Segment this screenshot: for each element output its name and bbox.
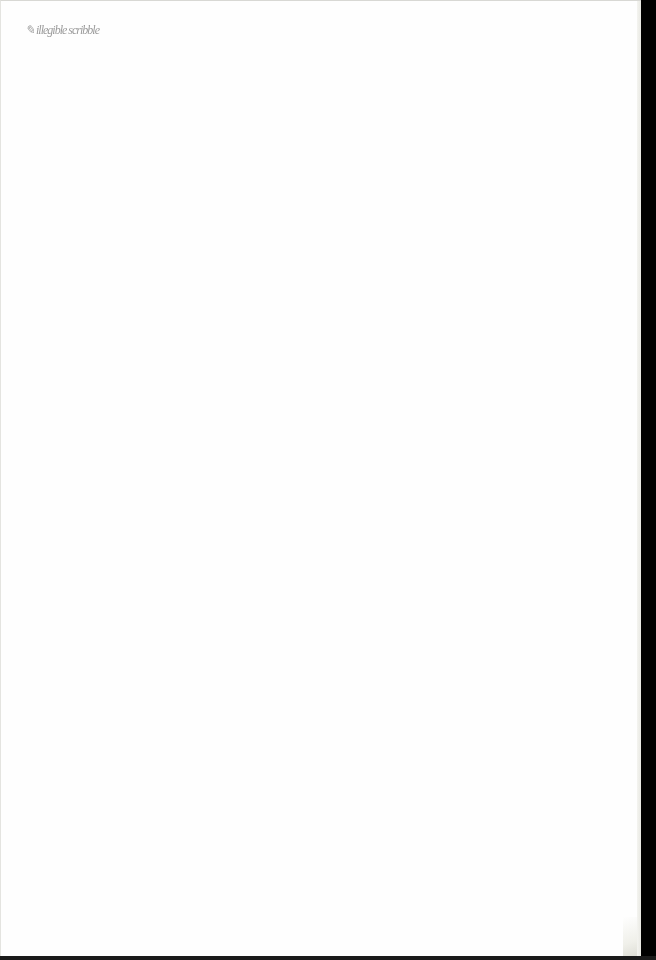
scanned-page: ✎ illegible scribble (0, 0, 641, 957)
scan-bottom-edge (0, 956, 656, 960)
page-corner-curl (623, 917, 641, 957)
handwritten-scribble: ✎ illegible scribble (25, 23, 99, 38)
handwritten-note-text: ✎ illegible scribble (25, 23, 99, 37)
